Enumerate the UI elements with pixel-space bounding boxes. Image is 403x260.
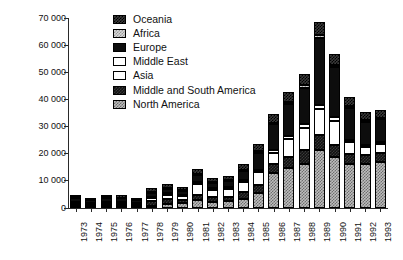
y-axis-tick-label: 30 000 xyxy=(38,121,66,131)
x-axis-tick-mark xyxy=(350,208,351,212)
x-axis-tick-label: 1981 xyxy=(202,222,211,242)
bar-segment-north-america xyxy=(253,193,264,208)
bar-1978 xyxy=(146,188,157,208)
bar-1988 xyxy=(299,74,310,208)
bar-segment-oceania xyxy=(299,74,310,85)
y-axis-tick: 60 000 xyxy=(0,40,76,50)
x-axis-tick-label: 1977 xyxy=(141,222,150,242)
bar-segment-oceania xyxy=(314,22,325,35)
bar-segment-europe xyxy=(177,191,188,195)
bar-segment-asia xyxy=(192,184,203,195)
x-axis-tick-label: 1983 xyxy=(232,222,241,242)
bar-segment-oceania xyxy=(253,144,264,151)
x-axis-tick-mark xyxy=(137,208,138,212)
bar-segment-oceania xyxy=(344,97,355,106)
bar-segment-europe xyxy=(253,153,264,170)
bar-segment-oceania xyxy=(116,195,127,197)
bar-segment-middle-east xyxy=(238,180,249,182)
x-axis-tick-mark xyxy=(243,208,244,212)
x-axis-tick-mark xyxy=(228,208,229,212)
bar-segment-north-america xyxy=(192,200,203,208)
bar-segment-middle-south-america xyxy=(238,192,249,199)
x-axis-tick-label: 1987 xyxy=(293,222,302,242)
bar-segment-north-america xyxy=(283,168,294,208)
bar-segment-africa xyxy=(299,85,310,87)
x-axis-tick-label: 1976 xyxy=(125,222,134,242)
bar-segment-africa xyxy=(268,122,279,124)
bar-segment-oceania xyxy=(268,114,279,122)
bar-segment-asia xyxy=(329,121,340,144)
bar-1992 xyxy=(360,112,371,208)
legend-swatch-europe xyxy=(113,43,126,52)
bar-1990 xyxy=(329,54,340,208)
x-axis-tick-mark xyxy=(152,208,153,212)
legend-item-africa: Africa xyxy=(113,26,256,40)
x-axis-tick-label: 1974 xyxy=(95,222,104,242)
legend-item-oceania: Oceania xyxy=(113,12,256,26)
bar-segment-africa xyxy=(283,102,294,104)
bar-segment-oceania xyxy=(146,188,157,191)
x-axis-tick-mark xyxy=(319,208,320,212)
x-axis-tick-mark xyxy=(335,208,336,212)
bar-segment-europe xyxy=(314,38,325,105)
x-axis-tick-mark xyxy=(365,208,366,212)
bar-segment-asia xyxy=(85,204,96,206)
bar-segment-oceania xyxy=(70,195,81,197)
x-axis-tick-mark xyxy=(182,208,183,212)
x-axis-tick-label: 1979 xyxy=(171,222,180,242)
bar-segment-asia xyxy=(146,198,157,201)
y-axis-tick-label: 40 000 xyxy=(38,94,66,104)
bar-segment-asia xyxy=(101,203,112,205)
bar-segment-asia xyxy=(207,190,218,197)
bar-segment-europe xyxy=(223,181,234,187)
bar-segment-oceania xyxy=(207,178,218,182)
x-axis-tick-mark xyxy=(198,208,199,212)
bar-segment-middle-east xyxy=(253,170,264,172)
legend-label: Oceania xyxy=(133,14,172,25)
bar-1974 xyxy=(85,198,96,208)
bar-segment-north-america xyxy=(344,164,355,208)
y-axis-tick: 50 000 xyxy=(0,67,76,77)
legend-item-north-america: North America xyxy=(113,97,256,111)
bar-segment-oceania xyxy=(131,198,142,200)
bar-segment-middle-south-america xyxy=(299,150,310,163)
bar-segment-africa xyxy=(314,35,325,38)
y-axis-tick-label: 20 000 xyxy=(38,148,66,158)
bar-segment-asia xyxy=(116,203,127,205)
legend-label: Middle and South America xyxy=(133,85,256,96)
bar-segment-middle-east xyxy=(314,105,325,109)
y-axis-tick-label: 70 000 xyxy=(38,13,66,23)
bar-segment-asia xyxy=(283,139,294,157)
x-axis-tick-mark xyxy=(289,208,290,212)
stacked-bar-chart: 70 00060 00050 00040 00030 00020 00010 0… xyxy=(0,0,403,260)
bar-1977 xyxy=(131,198,142,208)
bar-segment-europe xyxy=(329,67,340,117)
legend-swatch-oceania xyxy=(113,15,126,24)
bar-segment-middle-south-america xyxy=(253,185,264,193)
bar-segment-middle-south-america xyxy=(177,200,188,204)
bar-segment-north-america xyxy=(268,173,279,208)
bar-segment-asia xyxy=(268,153,279,164)
x-axis-tick-label: 1980 xyxy=(186,222,195,242)
y-axis-tick-label: 60 000 xyxy=(38,40,66,50)
bar-segment-north-america xyxy=(238,199,249,208)
bar-segment-asia xyxy=(223,189,234,197)
bar-segment-north-america xyxy=(299,164,310,209)
legend-swatch-middle-south-america xyxy=(113,86,126,95)
bar-segment-africa xyxy=(329,65,340,67)
bar-segment-asia xyxy=(375,144,386,153)
bar-1993 xyxy=(375,110,386,208)
legend-swatch-middle-east xyxy=(113,57,126,66)
legend-label: North America xyxy=(133,99,200,110)
bar-segment-middle-east xyxy=(360,145,371,147)
legend-label: Middle East xyxy=(133,56,188,67)
x-axis-tick-label: 1992 xyxy=(369,222,378,242)
x-axis-tick-label: 1984 xyxy=(247,222,256,242)
legend-item-middle-south-america: Middle and South America xyxy=(113,83,256,97)
bar-segment-middle-east xyxy=(344,140,355,143)
bar-segment-europe xyxy=(146,193,157,197)
bar-segment-europe xyxy=(283,104,294,135)
legend-item-asia: Asia xyxy=(113,69,256,83)
bar-segment-middle-east xyxy=(283,136,294,139)
legend-label: Africa xyxy=(133,28,160,39)
